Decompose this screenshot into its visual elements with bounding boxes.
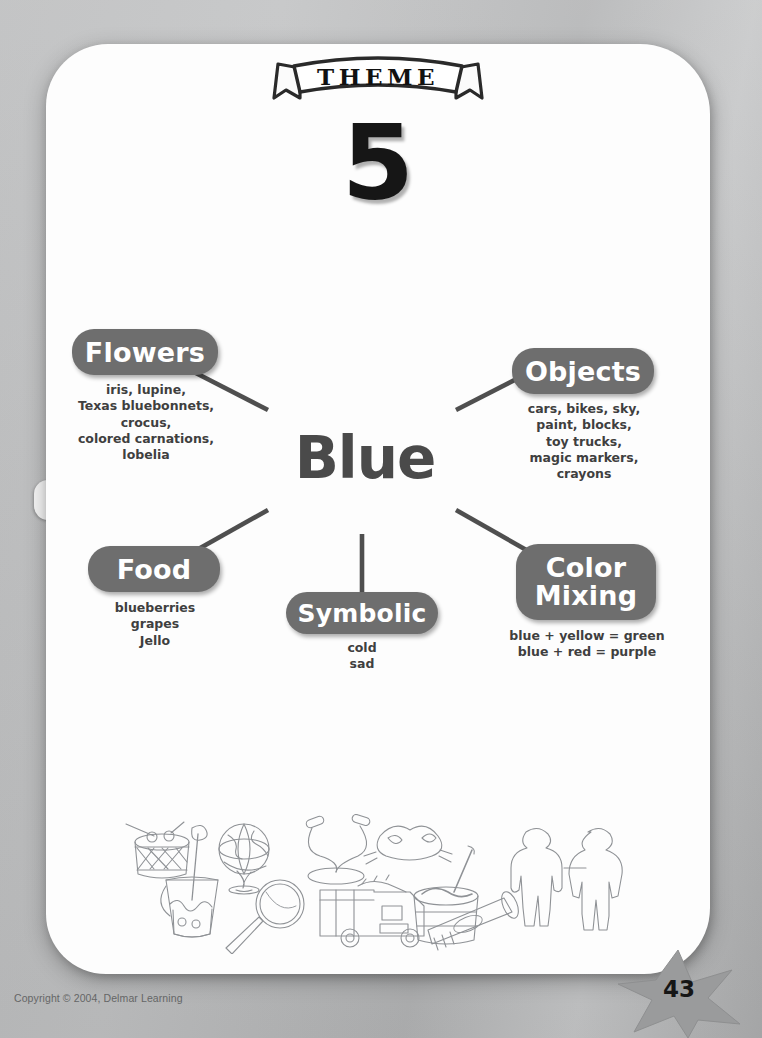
copyright-notice: Copyright © 2004, Delmar Learning [14, 992, 183, 1004]
branch-items-color-mixing: blue + yellow = green blue + red = purpl… [498, 628, 676, 661]
branch-pill-color-mixing[interactable]: Color Mixing [516, 544, 656, 620]
branch-label-color-mixing: Color Mixing [535, 554, 638, 611]
branch-label-food: Food [117, 554, 192, 585]
illustration-strip [124, 814, 624, 954]
branch-pill-flowers[interactable]: Flowers [72, 329, 218, 375]
page-number-label: 43 [612, 946, 748, 1038]
branch-pill-objects[interactable]: Objects [512, 348, 654, 394]
branch-pill-symbolic[interactable]: Symbolic [286, 592, 438, 634]
cat-mask-icon [364, 826, 452, 864]
branch-items-objects: cars, bikes, sky, paint, blocks, toy tru… [498, 401, 670, 482]
branch-items-flowers: iris, lupine, Texas bluebonnets, crocus,… [56, 382, 236, 463]
worksheet-page: THEME 5 Flowers iris, lupine, Texas blue… [46, 44, 710, 974]
drum-icon [126, 822, 189, 878]
page-number-star: 43 [612, 946, 748, 1038]
branch-label-objects: Objects [525, 356, 641, 387]
center-topic: Blue [282, 424, 448, 492]
branch-label-flowers: Flowers [85, 337, 205, 368]
branch-label-symbolic: Symbolic [298, 599, 427, 628]
fire-truck-icon [320, 875, 424, 947]
branch-items-symbolic: cold sad [294, 640, 430, 673]
branch-items-food: blueberries grapes Jello [76, 600, 234, 649]
branch-pill-food[interactable]: Food [88, 546, 220, 592]
glue-stick-icon [428, 889, 522, 950]
globe-icon [219, 824, 269, 894]
jump-rope-icon [305, 814, 371, 884]
paper-dolls-icon [511, 828, 622, 930]
